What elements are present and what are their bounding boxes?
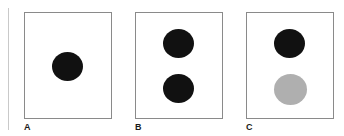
black-circle-bottom <box>163 74 194 103</box>
black-circle-center <box>52 52 83 81</box>
panel-b <box>135 12 223 119</box>
panel-label-c: C <box>246 121 253 133</box>
panel-c <box>246 12 334 119</box>
page-margin-rule <box>8 8 9 130</box>
panel-a <box>24 12 112 119</box>
panel-label-a: A <box>24 121 31 133</box>
figure-panels: A B C <box>0 0 344 136</box>
panel-label-b: B <box>135 121 142 133</box>
gray-circle-bottom <box>274 74 307 105</box>
black-circle-top <box>163 29 194 58</box>
black-circle-top <box>274 29 305 58</box>
